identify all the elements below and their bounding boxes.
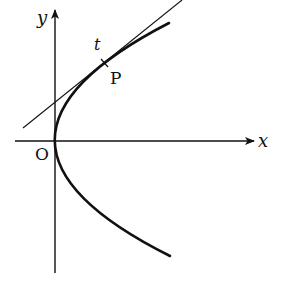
x-axis-label: x: [258, 130, 268, 151]
origin-label: O: [35, 144, 49, 164]
parabola-curve: [55, 23, 170, 256]
y-axis-label: y: [36, 7, 48, 28]
point-p-label: P: [110, 68, 121, 88]
diagram-canvas: y x O t P: [0, 0, 282, 283]
tangent-label: t: [94, 35, 101, 54]
